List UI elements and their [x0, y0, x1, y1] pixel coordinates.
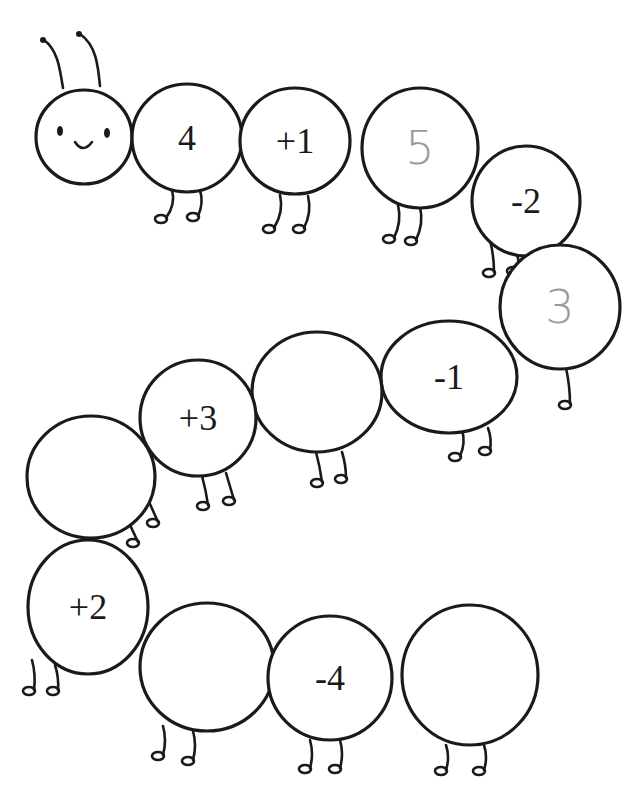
segment-circle [27, 416, 155, 538]
leg [316, 452, 322, 482]
caterpillar-worksheet: 4+15-23-1+3+2-4 [0, 0, 643, 805]
body-segment[interactable] [27, 416, 159, 547]
right-eye [104, 128, 110, 138]
leg [304, 196, 309, 228]
body-segment: -4 [268, 616, 392, 773]
operation-label: +2 [69, 587, 107, 627]
operation-label: -1 [434, 357, 464, 397]
body-segment: +1 [240, 88, 350, 233]
antennae [40, 31, 100, 88]
operation-label: -2 [511, 181, 541, 221]
leg [310, 740, 312, 768]
leg [566, 368, 570, 404]
body-segment: +3 [140, 360, 256, 510]
body-segment: +2 [23, 540, 148, 695]
segment-circle [140, 603, 274, 731]
caterpillar-head [36, 90, 132, 184]
body-segment: 4 [132, 84, 242, 223]
leg [163, 726, 165, 755]
body-segment[interactable] [252, 332, 382, 487]
answer-number: 5 [405, 121, 434, 175]
operation-label: +3 [179, 398, 217, 438]
leg [416, 207, 421, 240]
body-segment: -1 [381, 321, 517, 461]
left-eye [57, 126, 63, 136]
leg [394, 205, 399, 238]
operation-label: 4 [178, 118, 196, 158]
leg [340, 740, 342, 768]
leg [198, 190, 202, 216]
operation-label: -4 [315, 658, 345, 698]
answer-number: 3 [545, 280, 574, 334]
body-segment[interactable] [140, 603, 274, 765]
leg [460, 430, 464, 456]
leg [32, 660, 35, 690]
leg [274, 195, 281, 228]
operation-label: +1 [276, 121, 314, 161]
body-segment: 5 [362, 88, 478, 245]
body-segment[interactable] [402, 605, 538, 775]
leg [446, 745, 448, 770]
segments: 4+15-23-1+3+2-4 [23, 84, 620, 775]
leg [193, 731, 195, 760]
leg [202, 476, 208, 505]
leg [484, 745, 486, 770]
segment-circle [252, 332, 382, 452]
leg [166, 190, 173, 218]
segment-circle [402, 605, 538, 745]
